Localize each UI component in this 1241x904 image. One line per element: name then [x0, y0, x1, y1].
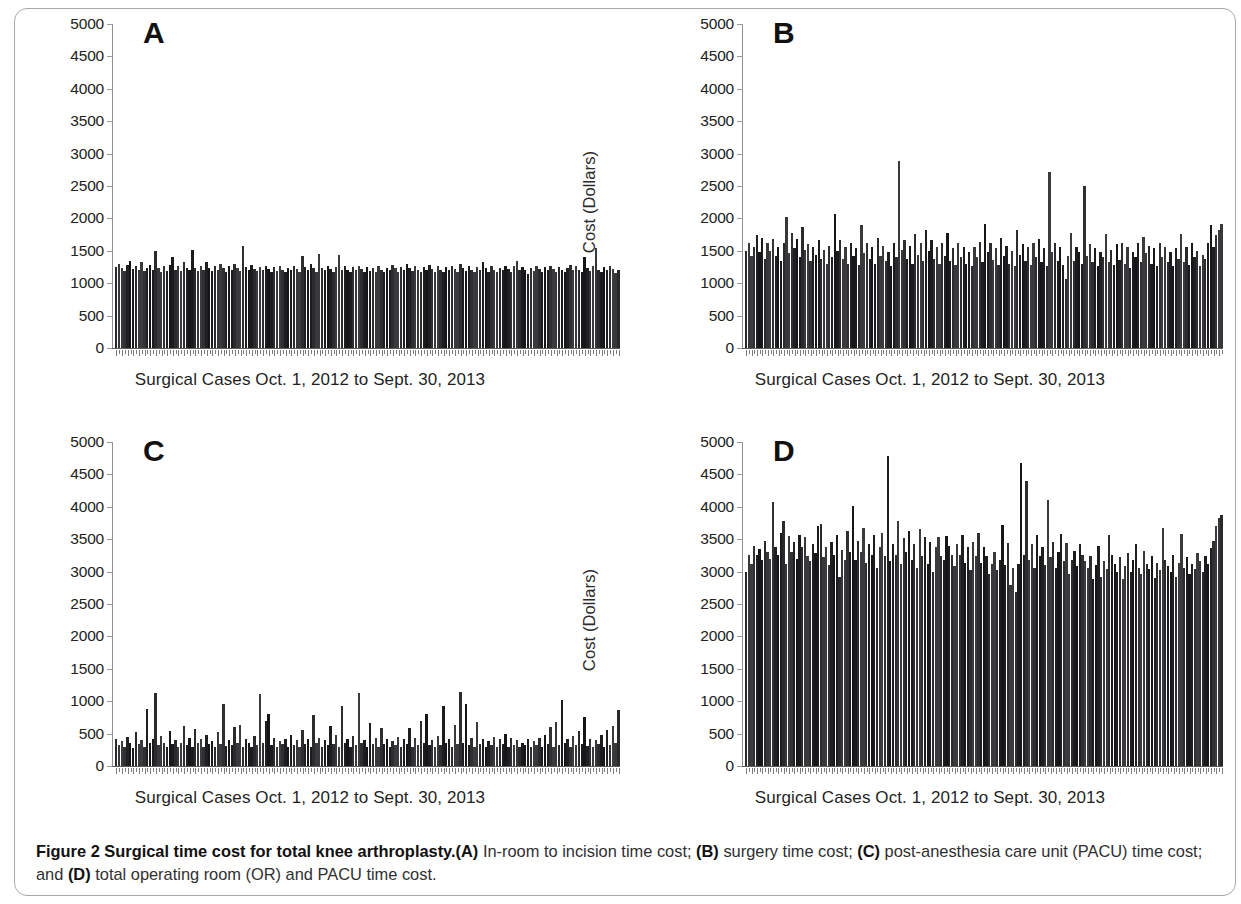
x-tick [455, 350, 456, 356]
x-tick [286, 768, 287, 774]
x-tick [835, 350, 836, 354]
x-tick [827, 350, 828, 356]
x-tick [210, 350, 211, 354]
x-tick [489, 768, 490, 774]
panel-c-axis-tick [107, 474, 113, 475]
x-tick [929, 350, 930, 356]
panel-c-axis-tick [107, 604, 113, 605]
x-tick [1222, 768, 1223, 774]
panel-d-y-tick-0: 0 [672, 757, 734, 775]
x-tick [1176, 350, 1177, 356]
x-tick [387, 350, 388, 356]
x-tick [936, 768, 937, 772]
panel-a-y-tick-3000: 3000 [42, 145, 104, 163]
x-tick [1138, 350, 1139, 356]
x-tick [795, 350, 796, 356]
panel-d-axis-tick [737, 507, 743, 508]
x-tick [1074, 350, 1075, 356]
x-tick [480, 350, 481, 354]
x-tick [520, 768, 521, 772]
x-tick [972, 350, 973, 356]
x-tick [1214, 350, 1215, 356]
x-tick [981, 768, 982, 774]
x-tick [877, 768, 878, 772]
x-tick [201, 768, 202, 774]
x-tick [1090, 350, 1091, 356]
x-tick [1010, 350, 1011, 356]
x-tick [427, 350, 428, 356]
x-tick [559, 350, 560, 354]
x-tick [353, 350, 354, 356]
x-tick [311, 350, 312, 354]
x-tick [779, 350, 780, 356]
x-tick [786, 768, 787, 772]
x-tick [1149, 350, 1150, 356]
x-tick [1059, 768, 1060, 772]
x-tick [944, 768, 945, 774]
x-tick [365, 350, 366, 356]
x-tick [973, 768, 974, 772]
x-tick [534, 768, 535, 774]
x-tick [1028, 350, 1029, 354]
x-tick [359, 768, 360, 774]
x-tick [816, 768, 817, 774]
x-tick [1000, 768, 1001, 772]
x-tick [867, 350, 868, 354]
x-tick [520, 350, 521, 354]
x-tick [996, 350, 997, 354]
panel-c-plot-area [115, 442, 620, 766]
x-tick [1146, 350, 1147, 354]
panel-a-axis-tick [107, 218, 113, 219]
x-tick [1093, 768, 1094, 774]
x-tick [947, 768, 948, 772]
x-tick [297, 768, 298, 774]
x-tick [991, 350, 992, 354]
panel-a-axis-tick [107, 186, 113, 187]
x-tick [480, 768, 481, 772]
x-tick [984, 768, 985, 772]
x-tick [373, 350, 374, 354]
figure-page: Cost (Dollars) 0500100015002000250030003… [0, 0, 1241, 904]
x-tick [576, 350, 577, 354]
x-tick [336, 768, 337, 774]
x-tick [909, 768, 910, 772]
x-tick [757, 768, 758, 774]
caption-tag-d: (D) [68, 865, 91, 883]
x-tick [557, 768, 558, 774]
x-tick [331, 768, 332, 774]
x-tick [119, 768, 120, 772]
x-tick [891, 768, 892, 774]
panel-b-y-tick-500: 500 [672, 307, 734, 325]
x-tick [1150, 768, 1151, 772]
x-tick [1008, 768, 1009, 774]
x-tick [125, 350, 126, 354]
panel-d-y-tick-1000: 1000 [672, 692, 734, 710]
x-tick [356, 350, 357, 354]
x-tick [1128, 350, 1129, 356]
x-tick [494, 350, 495, 356]
x-tick [131, 768, 132, 772]
x-tick [765, 768, 766, 772]
x-tick [1160, 350, 1161, 356]
x-tick [159, 350, 160, 354]
x-tick [1147, 768, 1148, 774]
x-tick [1080, 768, 1081, 772]
x-tick [960, 768, 961, 774]
x-tick [843, 350, 844, 356]
x-tick [1027, 768, 1028, 772]
x-tick [596, 350, 597, 356]
x-tick [987, 768, 988, 774]
x-tick [523, 768, 524, 774]
x-tick [500, 768, 501, 774]
panel-d-axis-tick [737, 474, 743, 475]
x-tick [438, 350, 439, 356]
x-tick [851, 350, 852, 354]
x-tick [500, 350, 501, 356]
x-tick [568, 768, 569, 774]
panel-b-axis-tick [737, 56, 743, 57]
x-tick [1165, 350, 1166, 356]
x-tick [829, 768, 830, 772]
x-tick [444, 350, 445, 356]
figure-panels: Cost (Dollars) 0500100015002000250030003… [0, 0, 1241, 832]
x-tick [1047, 350, 1048, 356]
